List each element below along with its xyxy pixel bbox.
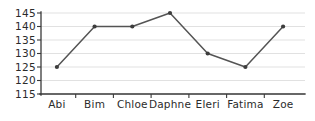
data-point xyxy=(206,51,210,55)
y-axis-label: 125 xyxy=(15,61,36,73)
data-point xyxy=(130,24,134,28)
x-axis-label: Zoe xyxy=(273,98,294,110)
x-axis-label: Daphne xyxy=(149,98,191,110)
y-axis-label: 145 xyxy=(15,7,36,19)
y-axis-label: 120 xyxy=(15,74,36,86)
y-axis-label: 140 xyxy=(15,20,36,32)
y-axis-label: 130 xyxy=(15,47,36,59)
data-point xyxy=(55,65,59,69)
x-axis-label: Eleri xyxy=(196,98,220,110)
data-point xyxy=(93,24,97,28)
data-point xyxy=(168,11,172,15)
data-point xyxy=(243,65,247,69)
x-axis-label: Fatima xyxy=(227,98,263,110)
y-axis-label: 115 xyxy=(15,88,36,100)
chart-canvas: 145140135130125120115 AbiBimChloeDaphneE… xyxy=(0,0,315,121)
x-axis-tick-labels: AbiBimChloeDaphneEleriFatimaZoe xyxy=(48,98,293,110)
x-axis-label: Chloe xyxy=(117,98,148,110)
y-axis-label: 135 xyxy=(15,34,36,46)
x-axis-label: Bim xyxy=(84,98,105,110)
y-axis-tick-labels: 145140135130125120115 xyxy=(15,7,36,100)
line-chart: 145140135130125120115 AbiBimChloeDaphneE… xyxy=(0,0,315,121)
data-point xyxy=(281,24,285,28)
x-axis-label: Abi xyxy=(48,98,65,110)
